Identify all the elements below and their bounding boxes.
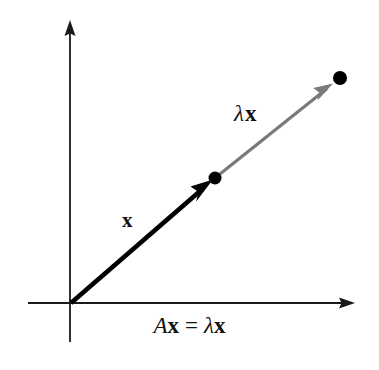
caption-lambda-symbol: λ: [204, 313, 214, 338]
point-tip-of-x: [209, 172, 222, 185]
label-lambda-symbol: λ: [234, 101, 244, 126]
caption-vector-x-1: x: [168, 313, 180, 338]
eigenvector-figure: x λx Ax=λx: [0, 0, 379, 370]
label-vector-lambda-x: λx: [234, 102, 256, 125]
vector-x-shaft: [71, 189, 203, 304]
vector-lambda-x: [215, 84, 333, 179]
caption-vector-x-2: x: [214, 313, 226, 338]
caption-equals-sign: =: [185, 313, 198, 338]
vector-lambda-x-shaft: [215, 89, 327, 179]
vector-x: [71, 180, 213, 304]
caption-matrix-a: A: [153, 313, 167, 338]
label-lambda-vector-x: x: [245, 101, 257, 126]
label-vector-x: x: [122, 210, 133, 231]
axes-group: [28, 20, 355, 342]
point-tip-of-lambda-x: [333, 71, 347, 85]
caption-equation: Ax=λx: [0, 314, 379, 337]
